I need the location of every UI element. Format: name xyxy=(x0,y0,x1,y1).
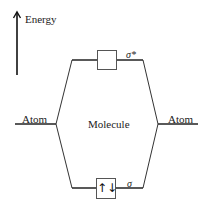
bonding-label: σ xyxy=(127,179,132,189)
molecule-label: Molecule xyxy=(88,119,130,130)
mo-diagram: Energy Atom Atom Molecule σ* ↑↓ σ xyxy=(0,0,209,204)
right-correlation-lines xyxy=(143,60,158,188)
right-atom-label: Atom xyxy=(168,114,193,125)
bonding-orbital-box: ↑↓ xyxy=(96,178,116,199)
left-atom-label: Atom xyxy=(22,114,47,125)
antibonding-orbital-box xyxy=(97,50,117,70)
left-correlation-lines xyxy=(56,60,72,188)
diagram-lines xyxy=(0,0,209,204)
antibonding-label: σ* xyxy=(126,50,136,60)
energy-arrow-icon xyxy=(14,12,21,75)
electron-pair-icon: ↑↓ xyxy=(97,181,117,195)
energy-axis-label: Energy xyxy=(25,14,57,25)
